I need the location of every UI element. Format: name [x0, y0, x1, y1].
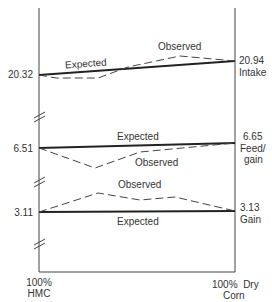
x-left-label-2: HMC: [22, 288, 56, 299]
intake-label: Intake: [239, 67, 266, 78]
fg-label-2: gain: [244, 154, 263, 165]
gain-right-value: 3.13: [240, 202, 259, 213]
gain-label: Gain: [240, 214, 261, 225]
fg-left-value: 6.51: [0, 143, 33, 154]
gain-expected-line: [39, 211, 235, 212]
gain-expected-label: Expected: [117, 216, 159, 227]
x-left-label-1: 100%: [22, 277, 56, 288]
intake-left-value: 20.32: [0, 69, 33, 80]
gain-observed-line: [39, 193, 235, 212]
x-right-label-1: 100% Dry: [212, 279, 259, 290]
fg-right-value: 6.65: [243, 131, 262, 142]
fg-observed-label: Observed: [135, 157, 178, 168]
fg-label-1: Feed/: [240, 143, 266, 154]
gain-observed-label: Observed: [118, 179, 161, 190]
x-right-label-2: Corn: [223, 290, 245, 301]
fg-expected-label: Expected: [117, 131, 159, 142]
chart-plot: [0, 0, 272, 302]
intake-right-value: 20.94: [239, 55, 264, 66]
intake-observed-label: Observed: [158, 41, 201, 52]
gain-left-value: 3.11: [0, 207, 33, 218]
